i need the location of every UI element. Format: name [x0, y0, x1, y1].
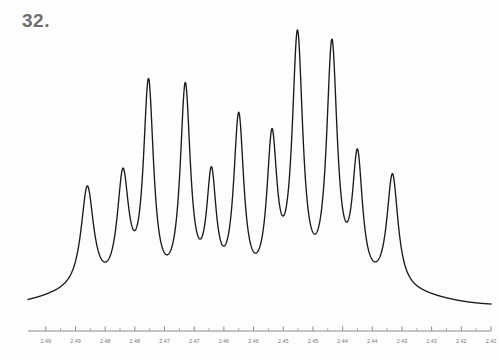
tick-label: 2.43	[426, 338, 437, 344]
tick-label: 2.49	[41, 338, 52, 344]
axis-ticks	[46, 327, 491, 332]
tick-label: 2.44	[367, 338, 378, 344]
x-axis: 2.492.492.482.482.472.472.462.462.452.45…	[28, 327, 496, 345]
tick-label: 2.46	[219, 338, 230, 344]
axis-tick-labels: 2.492.492.482.482.472.472.462.462.452.45…	[41, 338, 497, 344]
spectrum-trace	[28, 30, 491, 304]
tick-label: 2.44	[337, 338, 348, 344]
tick-label: 2.43	[397, 338, 408, 344]
figure-number-label: 32.	[22, 10, 50, 32]
tick-label: 2.49	[70, 338, 81, 344]
tick-label: 2.48	[130, 338, 141, 344]
spectrum-trace-group	[28, 30, 491, 304]
tick-label: 2.45	[278, 338, 289, 344]
tick-label: 2.47	[189, 338, 200, 344]
tick-label: 2.45	[308, 338, 319, 344]
tick-label: 2.48	[100, 338, 111, 344]
nmr-spectrum-figure: 32. 2.492.492.482.482.472.472.462.462.45…	[0, 0, 499, 359]
tick-label: 2.42	[456, 338, 467, 344]
spectrum-plot: 2.492.492.482.482.472.472.462.462.452.45…	[0, 0, 499, 359]
tick-label: 2.46	[248, 338, 259, 344]
tick-label: 2.42	[486, 338, 497, 344]
tick-label: 2.47	[159, 338, 170, 344]
